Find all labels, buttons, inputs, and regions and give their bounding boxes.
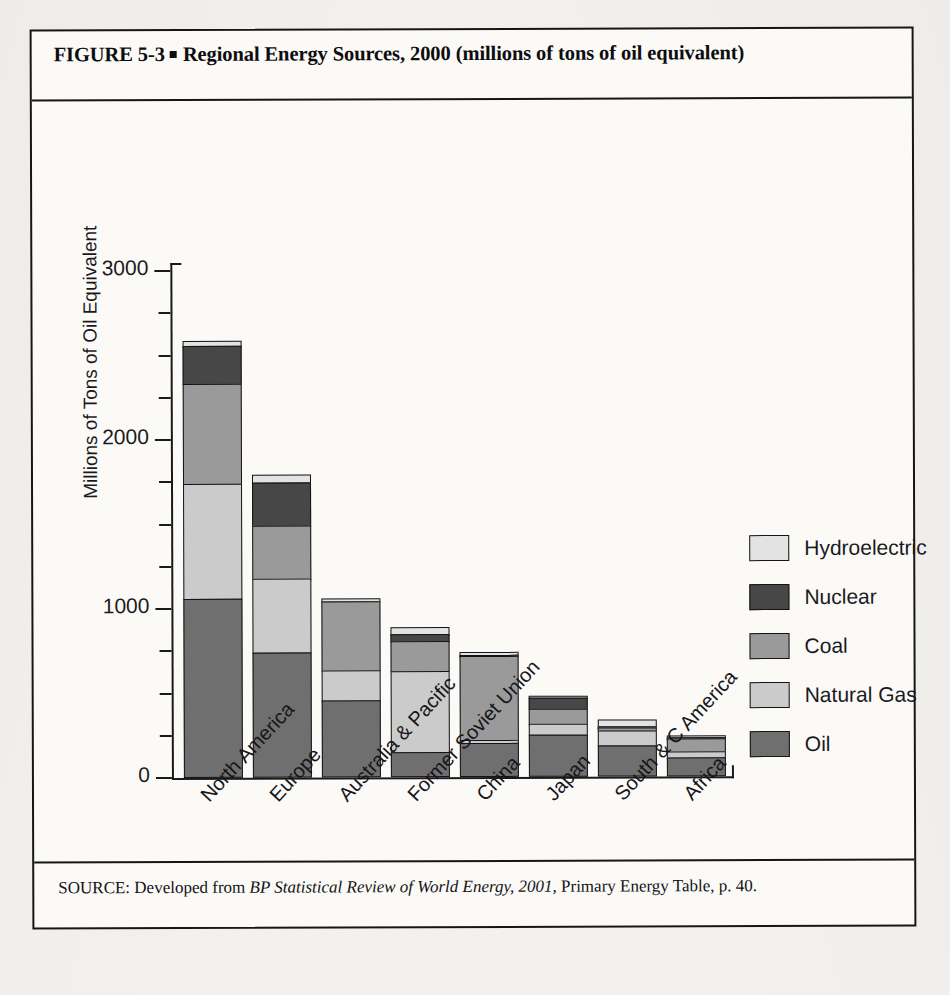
chart-legend: HydroelectricNuclearCoalNatural GasOil <box>749 523 927 769</box>
bar-segment-nuclear <box>252 483 311 527</box>
legend-item-coal: Coal <box>749 621 927 671</box>
legend-label: Coal <box>804 633 847 657</box>
legend-swatch-icon <box>750 731 790 757</box>
source-title-italic: BP Statistical Review of World Energy, 2… <box>249 877 556 897</box>
legend-label: Nuclear <box>804 584 876 608</box>
legend-swatch-icon <box>750 682 790 708</box>
figure-header: FIGURE 5-3Regional Energy Sources, 2000 … <box>32 29 912 102</box>
figure-source-note: SOURCE: Developed from BP Statistical Re… <box>34 859 914 928</box>
legend-item-natural-gas: Natural Gas <box>750 670 928 720</box>
figure-body: 0100020003000 Millions of Tons of Oil Eq… <box>32 99 914 864</box>
bar-segment-coal <box>321 601 380 672</box>
bullet-square-icon <box>170 51 177 58</box>
legend-swatch-icon <box>749 633 789 659</box>
figure-title: FIGURE 5-3Regional Energy Sources, 2000 … <box>54 40 890 68</box>
legend-swatch-icon <box>749 584 789 610</box>
bar-north-america <box>183 341 243 778</box>
bar-segment-nuclear <box>183 346 242 385</box>
source-suffix: Primary Energy Table, p. 40. <box>557 876 757 896</box>
legend-label: Natural Gas <box>805 682 917 706</box>
bar-segment-coal <box>183 383 242 485</box>
figure-number: FIGURE 5-3 <box>54 43 165 65</box>
figure-title-text: Regional Energy Sources, 2000 (millions … <box>183 41 744 65</box>
bar-segment-coal <box>529 708 588 725</box>
source-prefix: SOURCE: Developed from <box>58 878 249 898</box>
bar-segment-natural-gas <box>322 671 381 702</box>
bar-segment-coal <box>391 641 450 672</box>
legend-item-oil: Oil <box>750 719 928 769</box>
chart-plot-area: 0100020003000 Millions of Tons of Oil Eq… <box>32 99 914 864</box>
legend-item-hydroelectric: Hydroelectric <box>749 523 927 573</box>
bar-segment-natural-gas <box>252 579 311 654</box>
legend-item-nuclear: Nuclear <box>749 572 927 622</box>
bar-segment-coal <box>252 525 311 580</box>
legend-label: Hydroelectric <box>804 535 927 559</box>
legend-swatch-icon <box>749 535 789 561</box>
figure-box: FIGURE 5-3Regional Energy Sources, 2000 … <box>30 27 917 930</box>
legend-label: Oil <box>805 731 831 755</box>
bar-segment-natural-gas <box>183 483 242 600</box>
